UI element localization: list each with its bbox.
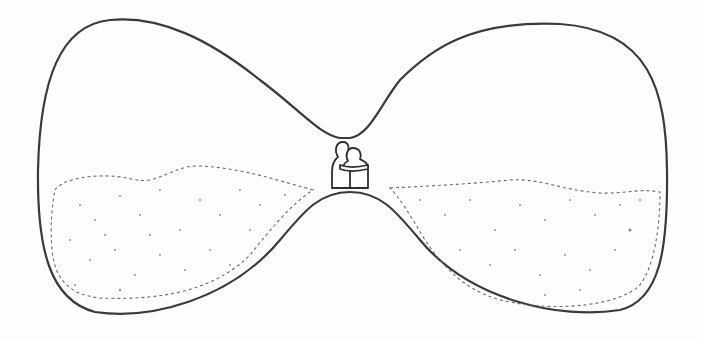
sand-grains <box>69 189 641 296</box>
left-sand-pile <box>51 166 313 298</box>
hourglass-illustration <box>0 0 703 340</box>
sketch-canvas <box>0 0 703 340</box>
embracing-figures <box>332 142 368 188</box>
right-sand-pile <box>390 180 660 307</box>
